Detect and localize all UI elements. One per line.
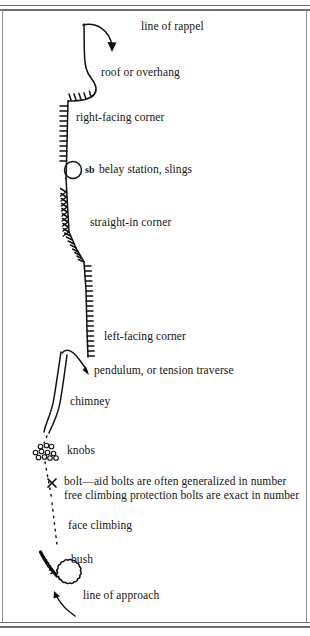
rappel-arrow-icon [83, 24, 117, 52]
belay-station-icon [65, 162, 82, 179]
label-left-facing-corner: left-facing corner [104, 330, 186, 343]
chimney-icon [44, 352, 67, 433]
label-line-of-approach: line of approach [83, 589, 159, 602]
approach-arrow-icon [54, 591, 76, 616]
left-facing-corner-icon [84, 262, 94, 357]
roof-overhang-icon [68, 24, 96, 101]
label-knobs: knobs [67, 444, 95, 457]
label-straight-in-corner: straight-in corner [90, 216, 171, 229]
label-right-facing-corner: right-facing corner [76, 111, 164, 124]
label-bush: bush [71, 553, 93, 566]
straight-in-corner-icon [61, 178, 85, 262]
label-belay-station-slings: belay station, slings [99, 163, 192, 176]
label-chimney: chimney [70, 395, 110, 408]
label-bolt-free-climbing: free climbing protection bolts are exact… [64, 489, 299, 502]
topo-legend-page: line of rappel roof or overhang right-fa… [0, 0, 310, 636]
label-face-climbing: face climbing [68, 519, 132, 532]
topo-route-drawing [0, 0, 310, 636]
label-pendulum-or-tension-traverse: pendulum, or tension traverse [94, 364, 234, 377]
label-belay-marker-sb: sb [85, 163, 95, 176]
label-roof-or-overhang: roof or overhang [101, 66, 180, 79]
right-facing-corner-icon [60, 92, 91, 164]
knobs-icon [33, 443, 58, 460]
label-bolt-aid-bolts: bolt—aid bolts are often generalized in … [64, 475, 286, 488]
label-line-of-rappel: line of rappel [141, 20, 204, 33]
